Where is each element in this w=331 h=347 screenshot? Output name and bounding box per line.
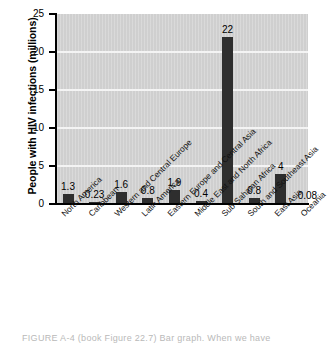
y-axis-tick xyxy=(49,127,56,129)
gridline xyxy=(57,127,308,129)
figure-caption: FIGURE A-4 (book Figure 22.7) Bar graph.… xyxy=(22,333,322,346)
bar-chart-figure: People with HIV infections (millions) 25… xyxy=(0,0,331,347)
y-axis-tick-label: 25 xyxy=(14,8,44,19)
bar-value-label: 22 xyxy=(214,24,242,35)
y-axis-line xyxy=(55,13,57,205)
bar-value-label: 1.3 xyxy=(54,181,82,192)
y-axis-tick xyxy=(49,89,56,91)
y-axis-tick-label: 10 xyxy=(14,122,44,133)
y-axis-tick xyxy=(49,51,56,53)
y-axis-tick-label: 0 xyxy=(14,198,44,209)
y-axis-tick xyxy=(49,13,56,15)
gridline xyxy=(57,51,308,53)
gridline xyxy=(57,89,308,91)
y-axis-title: People with HIV infections (millions) xyxy=(26,6,38,206)
y-axis-tick xyxy=(49,203,56,205)
y-axis-tick-label: 20 xyxy=(14,46,44,57)
y-axis-tick-label: 5 xyxy=(14,160,44,171)
y-axis-tick-label: 15 xyxy=(14,84,44,95)
y-axis-tick xyxy=(49,165,56,167)
